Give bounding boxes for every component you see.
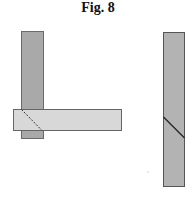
left-horizontal-bar bbox=[14, 110, 122, 131]
right-vertical-bar bbox=[164, 33, 185, 187]
stray-mark bbox=[147, 171, 148, 172]
figure-diagram bbox=[0, 0, 196, 197]
